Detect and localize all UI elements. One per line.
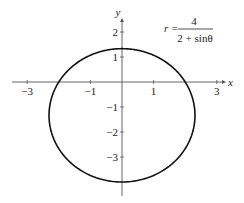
ticks: −3−11321−1−2−3: [21, 26, 220, 163]
y-tick-label: −1: [106, 101, 118, 113]
equation-numerator: 4: [191, 15, 197, 27]
y-axis-label: y: [115, 6, 121, 18]
equation-lhs: r =: [164, 22, 178, 34]
equation-denominator: 2 + sinθ: [177, 32, 212, 44]
y-tick-label: −3: [106, 151, 118, 163]
polar-plot: xy −3−11321−1−2−3 r = 4 2 + sinθ: [0, 0, 244, 203]
x-tick-label: −1: [85, 85, 97, 97]
y-tick-label: 1: [113, 51, 119, 63]
y-tick-label: −2: [106, 126, 118, 138]
x-tick-label: 1: [151, 85, 157, 97]
equation-annotation: r = 4 2 + sinθ: [164, 15, 213, 44]
x-axis-label: x: [227, 76, 233, 88]
x-tick-label: −3: [21, 85, 33, 97]
y-tick-label: 2: [113, 26, 119, 38]
x-axis-arrow-icon: [222, 80, 226, 84]
y-axis-arrow-icon: [120, 18, 124, 22]
x-tick-label: 3: [214, 85, 220, 97]
plot-canvas: xy −3−11321−1−2−3 r = 4 2 + sinθ: [0, 0, 244, 203]
